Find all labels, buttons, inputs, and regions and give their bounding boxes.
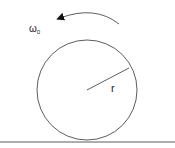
radius-label: r [111, 82, 115, 94]
rotation-arrow-icon [60, 13, 119, 24]
radius-line [87, 68, 129, 90]
omega-label: ω0 [29, 23, 41, 35]
rolling-disk-diagram: ω0 r [0, 0, 175, 148]
